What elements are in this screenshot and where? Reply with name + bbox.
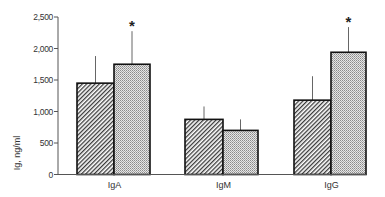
bar-chart: 05001,0001,5002,0002,500 ** IgAIgMIgG Ig… — [0, 0, 385, 197]
y-tick-label: 2,000 — [33, 44, 53, 54]
y-tick-label: 2,500 — [33, 12, 53, 22]
y-tick-label: 500 — [40, 138, 54, 148]
x-category-label: IgG — [324, 180, 339, 190]
y-axis-title: Ig, ng/ml — [12, 136, 22, 171]
significance-asterisk: * — [346, 13, 352, 30]
y-tick-label: 0 — [49, 170, 54, 180]
bar-igm-series2 — [223, 130, 258, 174]
bars-group: ** — [77, 13, 366, 175]
bar-iga-series2 — [114, 64, 150, 174]
bar-igg-series2 — [331, 52, 366, 174]
bar-group-iga: * — [77, 17, 150, 175]
bar-group-igg: * — [294, 13, 366, 175]
x-category-label: IgA — [108, 180, 122, 190]
y-tick-label: 1,000 — [33, 107, 53, 117]
bar-group-igm — [185, 106, 258, 174]
x-category-label: IgM — [216, 180, 231, 190]
bar-igg-series1 — [294, 100, 331, 174]
bar-igm-series1 — [185, 119, 223, 174]
y-tick-label: 1,500 — [33, 75, 53, 85]
y-axis: 05001,0001,5002,0002,500 — [33, 12, 58, 180]
significance-asterisk: * — [129, 17, 135, 34]
bar-iga-series1 — [77, 83, 114, 174]
x-axis: IgAIgMIgG — [58, 175, 366, 191]
